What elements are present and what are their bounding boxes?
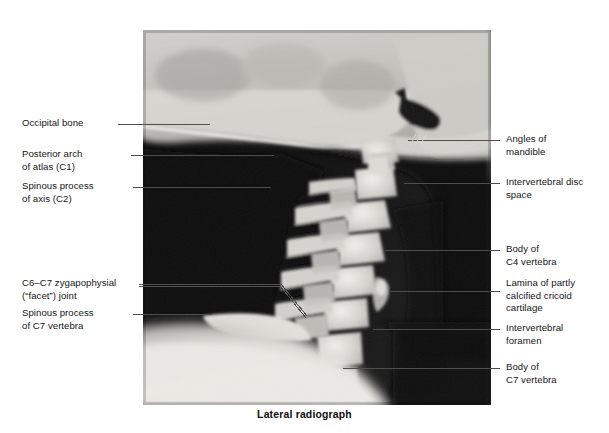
label-spinous-process-c7: Spinous process of C7 vertebra [22, 307, 94, 332]
radiograph-image [143, 30, 491, 405]
label-line: mandible [506, 146, 546, 159]
label-c6-c7-zygapophysial-joint: C6–C7 zygapophysial (“facet”) joint [22, 277, 116, 302]
label-spinous-process-axis: Spinous process of axis (C2) [22, 180, 94, 205]
label-line: (“facet”) joint [22, 290, 116, 303]
label-line: Intervertebral disc [506, 176, 583, 189]
label-line: Body of [506, 361, 557, 374]
label-intervertebral-disc-space: Intervertebral disc space [506, 176, 583, 201]
label-line: Occipital bone [22, 117, 84, 130]
label-line: of axis (C2) [22, 193, 94, 206]
label-body-of-c7-vertebra: Body of C7 vertebra [506, 361, 557, 386]
radiograph-svg [143, 30, 491, 405]
label-line: C6–C7 zygapophysial [22, 277, 116, 290]
label-line: Lamina of partly [506, 277, 575, 290]
figure-cervical-spine-radiograph: Occipital bone Posterior arch of atlas (… [0, 0, 609, 433]
label-posterior-arch-atlas: Posterior arch of atlas (C1) [22, 148, 82, 173]
label-line: Intervertebral [506, 322, 563, 335]
label-line: space [506, 189, 583, 202]
label-line: cartilage [506, 302, 575, 315]
label-body-of-c4-vertebra: Body of C4 vertebra [506, 243, 557, 268]
label-line: foramen [506, 335, 563, 348]
label-line: Body of [506, 243, 557, 256]
label-line: of C7 vertebra [22, 320, 94, 333]
label-line: calcified cricoid [506, 290, 575, 303]
label-line: C4 vertebra [506, 256, 557, 269]
figure-caption: Lateral radiograph [0, 409, 609, 420]
label-line: Angles of [506, 133, 546, 146]
label-intervertebral-foramen: Intervertebral foramen [506, 322, 563, 347]
label-line: Posterior arch [22, 148, 82, 161]
label-occipital-bone: Occipital bone [22, 117, 84, 130]
label-line: C7 vertebra [506, 374, 557, 387]
label-lamina-cricoid-cartilage: Lamina of partly calcified cricoid carti… [506, 277, 575, 315]
label-angles-of-mandible: Angles of mandible [506, 133, 546, 158]
label-line: of atlas (C1) [22, 161, 82, 174]
label-line: Spinous process [22, 307, 94, 320]
label-line: Spinous process [22, 180, 94, 193]
